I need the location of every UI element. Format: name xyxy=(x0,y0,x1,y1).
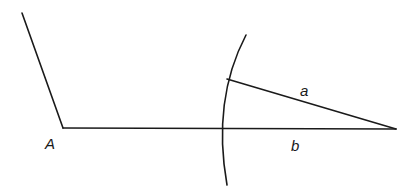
construction-diagram: A a b xyxy=(0,0,415,194)
arc-construction xyxy=(222,35,246,185)
base-line-b xyxy=(63,128,396,129)
vertex-label-a: A xyxy=(44,135,55,152)
angle-ray-left xyxy=(22,13,63,128)
segment-a xyxy=(227,79,396,129)
segment-label-b: b xyxy=(291,137,299,154)
segment-label-a: a xyxy=(300,82,308,99)
